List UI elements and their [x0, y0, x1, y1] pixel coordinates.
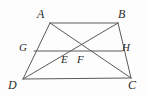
vertex-label-G: G — [19, 42, 27, 53]
vertex-label-A: A — [37, 8, 44, 20]
geometry-figure: A B G H E F D C — [0, 0, 148, 97]
point-label-E: E — [61, 54, 68, 65]
vertex-label-H: H — [122, 42, 130, 53]
vertex-label-C: C — [128, 79, 136, 91]
vertex-label-D: D — [8, 79, 17, 91]
point-label-F: F — [77, 54, 84, 65]
vertex-label-B: B — [118, 8, 125, 20]
side-DC — [23, 78, 131, 79]
